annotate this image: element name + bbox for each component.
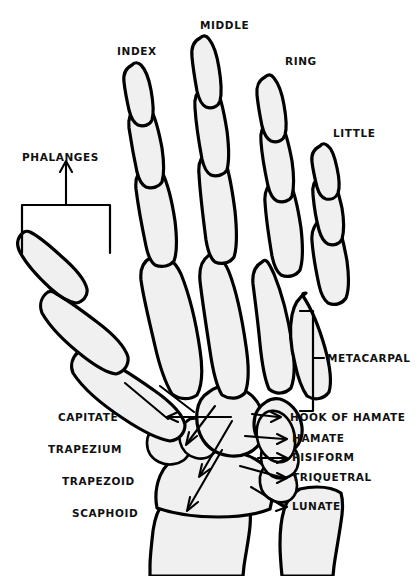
- carpal-label-triquetral: TRIQUETRAL: [292, 472, 372, 483]
- finger-label-little: LITTLE: [333, 128, 376, 139]
- leader-triquetral: [240, 466, 287, 483]
- group-label-phalanges: PHALANGES: [22, 152, 99, 163]
- finger-label-index: INDEX: [117, 46, 157, 57]
- phalanges-bracket: [22, 161, 110, 253]
- finger-label-middle: MIDDLE: [200, 20, 249, 31]
- leader-capitate-branch: [125, 383, 194, 419]
- annotation-lines-layer: [0, 0, 417, 576]
- carpal-label-hamate: HAMATE: [292, 433, 345, 444]
- carpal-label-capitate: CAPITATE: [58, 412, 118, 423]
- leader-trapezoid: [199, 421, 232, 477]
- carpal-label-scaphoid: SCAPHOID: [72, 508, 138, 519]
- leader-scaphoid: [187, 450, 222, 511]
- leader-hook-of-hamate: [252, 412, 281, 422]
- finger-label-ring: RING: [285, 56, 317, 67]
- group-label-metacarpal: METACARPAL: [327, 353, 411, 364]
- carpal-label-trapezoid: TRAPEZOID: [62, 476, 135, 487]
- leader-pisiform: [258, 453, 287, 463]
- carpal-label-pisiform: PISIFORM: [292, 452, 355, 463]
- metacarpal-bracket: [300, 311, 324, 411]
- hand-skeleton-diagram: INDEX MIDDLE RING LITTLE PHALANGES METAC…: [0, 0, 417, 576]
- leader-trapezium: [186, 406, 215, 445]
- leader-lunate: [251, 487, 287, 511]
- leader-capitate: [167, 412, 231, 422]
- carpal-label-hook-of-hamate: HOOK OF HAMATE: [290, 412, 406, 423]
- carpal-label-trapezium: TRAPEZIUM: [48, 444, 122, 455]
- carpal-label-lunate: LUNATE: [292, 501, 341, 512]
- leader-hamate: [245, 434, 287, 444]
